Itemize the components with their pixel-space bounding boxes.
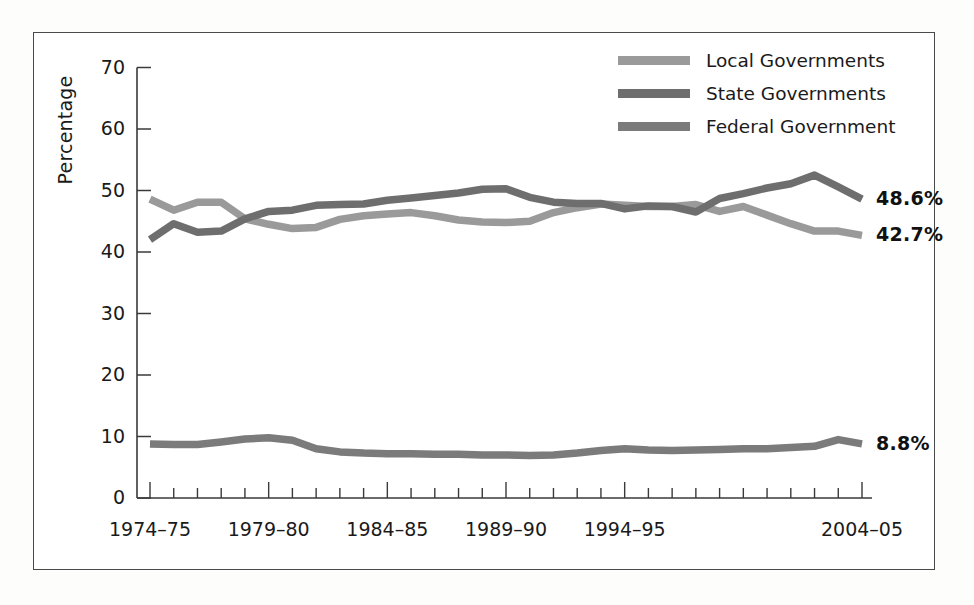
- series-line-federal-government: [150, 438, 862, 456]
- y-tick-label-20: 20: [85, 363, 125, 385]
- y-tick-label-70: 70: [85, 56, 125, 78]
- legend-item-local-governments[interactable]: Local Governments: [618, 50, 885, 71]
- end-label-local: 42.7%: [876, 223, 943, 245]
- y-tick-label-30: 30: [85, 302, 125, 324]
- x-tick-label-1979-80: 1979–80: [214, 518, 324, 540]
- legend-label: Local Governments: [706, 50, 885, 71]
- y-tick-label-0: 0: [85, 486, 125, 508]
- x-tick-label-2004-05: 2004–05: [807, 518, 917, 540]
- chart-series-lines: [150, 175, 862, 456]
- legend-swatch-icon: [618, 89, 690, 98]
- x-tick-label-1974-75: 1974–75: [95, 518, 205, 540]
- end-label-federal: 8.8%: [876, 432, 930, 454]
- legend-item-state-governments[interactable]: State Governments: [618, 83, 886, 104]
- y-tick-label-50: 50: [85, 179, 125, 201]
- legend-swatch-icon: [618, 122, 690, 131]
- end-label-state: 48.6%: [876, 187, 943, 209]
- x-tick-label-1989-90: 1989–90: [451, 518, 561, 540]
- x-tick-label-1984-85: 1984–85: [332, 518, 442, 540]
- legend-label: State Governments: [706, 83, 886, 104]
- x-tick-label-1994-95: 1994–95: [570, 518, 680, 540]
- chart-figure: Percentage 706050403020100 1974–751979–8…: [0, 0, 974, 605]
- y-tick-label-60: 60: [85, 117, 125, 139]
- y-tick-label-40: 40: [85, 240, 125, 262]
- legend-swatch-icon: [618, 56, 690, 65]
- y-tick-label-10: 10: [85, 425, 125, 447]
- legend-item-federal-government[interactable]: Federal Government: [618, 116, 895, 137]
- legend-label: Federal Government: [706, 116, 895, 137]
- y-axis-title: Percentage: [54, 45, 76, 215]
